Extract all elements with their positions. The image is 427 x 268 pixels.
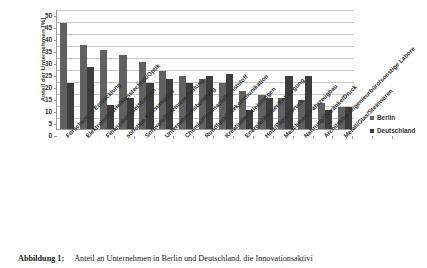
figure-container: Anteil der Unternehmen [%] 0510152025303… (0, 0, 427, 268)
legend-label: Deutschland (377, 127, 415, 134)
y-tick-mark (54, 112, 57, 113)
bar-berlin (60, 23, 67, 129)
legend-swatch-icon (370, 116, 374, 120)
legend-item-berlin[interactable]: Berlin (370, 114, 415, 121)
caption-text: Anteil an Unternehmen in Berlin und Deut… (74, 254, 313, 263)
bar-deutschland (226, 74, 233, 129)
y-tick-label: 30 (26, 61, 52, 67)
y-tick-label: 50 (26, 13, 52, 19)
y-tick-label: 35 (26, 49, 52, 55)
y-tick-mark (54, 88, 57, 89)
bar-deutschland (305, 76, 312, 129)
y-tick-mark (54, 64, 57, 65)
y-tick-mark (54, 16, 57, 17)
y-tick-label: 10 (26, 109, 52, 115)
y-tick-mark (54, 28, 57, 29)
legend-swatch-icon (370, 129, 374, 133)
y-tick-mark (54, 124, 57, 125)
bar-deutschland (67, 83, 74, 129)
y-tick-label: 15 (26, 97, 52, 103)
y-tick-label: 45 (26, 25, 52, 31)
x-axis-labels: Forschung & EntwicklungElektroindustrie/… (56, 132, 416, 236)
figure-caption: Abbildung 1:Anteil an Unternehmen in Ber… (18, 254, 418, 264)
caption-label: Abbildung 1: (18, 254, 64, 263)
y-tick-label: 20 (26, 85, 52, 91)
bar-chart: Anteil der Unternehmen [%] 0510152025303… (18, 4, 418, 236)
y-tick-label: 0 (26, 133, 52, 139)
y-tick-mark (54, 76, 57, 77)
legend-label: Berlin (377, 114, 395, 121)
y-tick-mark (54, 52, 57, 53)
chart-legend: BerlinDeutschland (370, 114, 415, 140)
y-tick-mark (54, 40, 57, 41)
y-tick-label: 25 (26, 73, 52, 79)
y-tick-mark (54, 100, 57, 101)
legend-item-deutschland[interactable]: Deutschland (370, 127, 415, 134)
y-tick-label: 40 (26, 37, 52, 43)
bar-deutschland (206, 76, 213, 129)
y-tick-label: 5 (26, 121, 52, 127)
